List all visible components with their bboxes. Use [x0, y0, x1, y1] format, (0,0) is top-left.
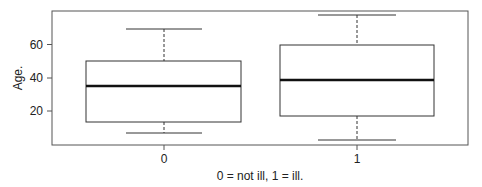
x-axis	[164, 145, 357, 150]
iqr-box-0	[86, 61, 241, 122]
y-axis	[47, 45, 52, 112]
x-axis-label: 0 = not ill, 1 = ill.	[217, 169, 304, 183]
plot-frame	[52, 11, 468, 145]
box-0	[86, 29, 241, 133]
box-1	[280, 15, 434, 140]
xtick-0: 0	[161, 152, 168, 166]
ytick-20: 20	[30, 104, 44, 118]
boxplot-chart: 60 40 20 Age. 0 1 0 = not ill, 1 = ill.	[0, 0, 482, 187]
ytick-40: 40	[30, 71, 44, 85]
ytick-60: 60	[30, 38, 44, 52]
y-axis-label: Age.	[11, 66, 25, 91]
xtick-1: 1	[354, 152, 361, 166]
